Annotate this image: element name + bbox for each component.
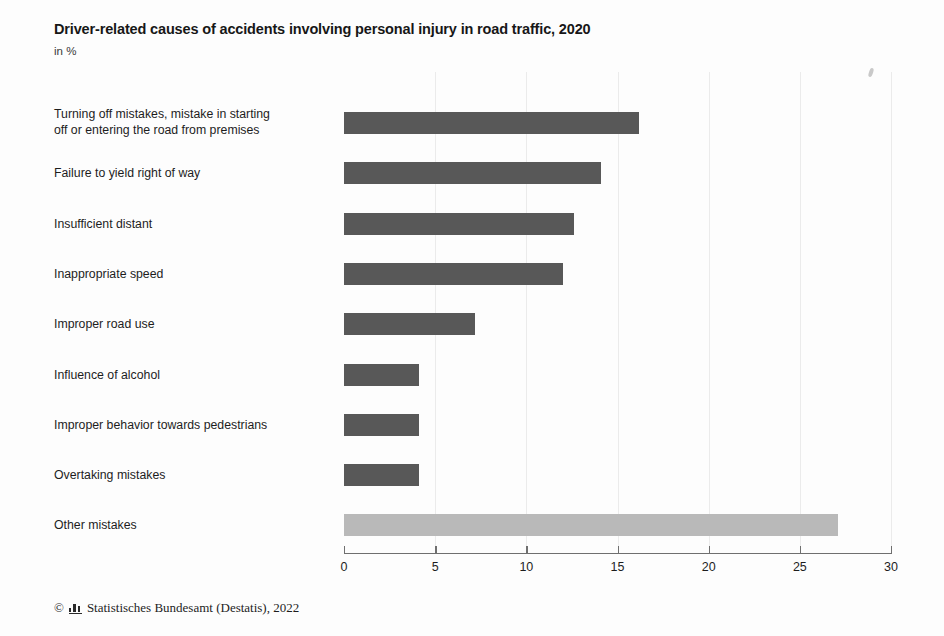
bar-row: Inappropriate speed	[0, 263, 944, 313]
tick-mark-20	[709, 546, 710, 554]
bar-row: Turning off mistakes, mistake in startin…	[0, 112, 944, 162]
category-label: Failure to yield right of way	[54, 165, 338, 181]
category-label: Other mistakes	[54, 517, 338, 533]
tick-mark-0	[344, 546, 345, 554]
category-label: Improper road use	[54, 316, 338, 332]
copyright-icon: ©	[54, 600, 64, 616]
tick-mark-15	[618, 546, 619, 554]
category-label: Improper behavior towards pedestrians	[54, 417, 338, 433]
bar	[344, 162, 601, 184]
bar	[344, 213, 574, 235]
bar-row: Overtaking mistakes	[0, 464, 944, 514]
bar	[344, 263, 563, 285]
source-text: Statistisches Bundesamt (Destatis), 2022	[87, 600, 299, 616]
bar-row: Improper behavior towards pedestrians	[0, 414, 944, 464]
bar	[344, 464, 419, 486]
bar	[344, 414, 419, 436]
bar-row: Influence of alcohol	[0, 364, 944, 414]
tick-label-25: 25	[793, 560, 807, 574]
plot-area: Turning off mistakes, mistake in startin…	[0, 0, 944, 636]
tick-mark-5	[435, 546, 436, 554]
category-label: Influence of alcohol	[54, 367, 338, 383]
category-label: Overtaking mistakes	[54, 467, 338, 483]
category-label: Insufficient distant	[54, 216, 338, 232]
bar	[344, 364, 419, 386]
tick-label-10: 10	[519, 560, 533, 574]
tick-label-15: 15	[611, 560, 625, 574]
chart-page: Driver-related causes of accidents invol…	[0, 0, 944, 636]
destatis-bar-logo-icon	[69, 602, 82, 614]
tick-label-5: 5	[432, 560, 439, 574]
bar	[344, 112, 639, 134]
source-footer: © Statistisches Bundesamt (Destatis), 20…	[54, 600, 299, 616]
tick-mark-30	[891, 546, 892, 554]
bar-row: Failure to yield right of way	[0, 162, 944, 212]
bar	[344, 313, 475, 335]
tick-mark-25	[800, 546, 801, 554]
tick-label-0: 0	[341, 560, 348, 574]
category-label: Turning off mistakes, mistake in startin…	[54, 106, 338, 138]
bar-row: Insufficient distant	[0, 213, 944, 263]
tick-mark-10	[526, 546, 527, 554]
bar-row: Improper road use	[0, 313, 944, 363]
tick-label-30: 30	[884, 560, 898, 574]
bar-row: Other mistakes	[0, 514, 944, 564]
category-label: Inappropriate speed	[54, 266, 338, 282]
tick-label-20: 20	[702, 560, 716, 574]
bar	[344, 514, 838, 536]
